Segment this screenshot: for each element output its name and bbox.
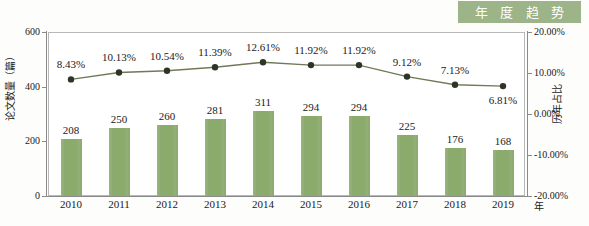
- y-axis-right-tick: [528, 32, 532, 33]
- bar: [301, 116, 322, 196]
- y-axis-left-tick: [42, 141, 46, 142]
- line-value-label: 7.13%: [425, 65, 485, 76]
- x-axis-label: 2010: [47, 199, 95, 210]
- bar-value-label: 294: [287, 102, 335, 113]
- bar-value-label: 225: [383, 121, 431, 132]
- x-axis-line: [46, 196, 528, 197]
- x-axis-label: 2017: [383, 199, 431, 210]
- x-axis-label: 2015: [287, 199, 335, 210]
- x-axis-label: 2016: [335, 199, 383, 210]
- bar: [205, 119, 226, 196]
- x-axis-label: 2019: [479, 199, 527, 210]
- y-axis-right-tick: [528, 155, 532, 156]
- y-axis-right-tick: [528, 114, 532, 115]
- y-axis-right-tick-label: 20.00%: [534, 27, 565, 37]
- x-axis-label: 2014: [239, 199, 287, 210]
- y-axis-left-tick-label: 0: [0, 191, 40, 201]
- bar-value-label: 260: [143, 111, 191, 122]
- chart-title-text: 年 度 趋 势: [471, 6, 567, 19]
- bar: [61, 139, 82, 196]
- y-axis-right-tick-label: -10.00%: [534, 150, 568, 160]
- y-axis-right-tick: [528, 196, 532, 197]
- x-axis-title: 年: [534, 198, 544, 213]
- bar: [109, 128, 130, 196]
- bar-value-label: 176: [431, 134, 479, 145]
- bar-value-label: 311: [239, 97, 287, 108]
- bar-value-label: 294: [335, 102, 383, 113]
- y-axis-right-tick: [528, 73, 532, 74]
- y-axis-left-line: [46, 31, 47, 197]
- line-value-label: 6.81%: [473, 95, 533, 106]
- bar-value-label: 168: [479, 136, 527, 147]
- y-axis-left-tick: [42, 196, 46, 197]
- x-axis-label: 2011: [95, 199, 143, 210]
- annual-trend-chart: 年 度 趋 势 0200400600 -20.00%-10.00%0.00%10…: [0, 0, 589, 226]
- bar: [157, 125, 178, 196]
- bar-value-label: 250: [95, 114, 143, 125]
- line-value-label: 11.92%: [329, 45, 389, 56]
- y-axis-left-tick: [42, 87, 46, 88]
- chart-title-badge: 年 度 趋 势: [458, 1, 581, 23]
- y-axis-left-tick-label: 200: [0, 136, 40, 146]
- x-axis-label: 2018: [431, 199, 479, 210]
- bar: [493, 150, 514, 196]
- bar-value-label: 281: [191, 105, 239, 116]
- y-axis-left-tick: [42, 32, 46, 33]
- bar: [349, 116, 370, 196]
- bar-value-label: 208: [47, 125, 95, 136]
- x-axis-label: 2012: [143, 199, 191, 210]
- x-axis-label: 2013: [191, 199, 239, 210]
- y-axis-right-title: 历年占比: [549, 69, 564, 139]
- bar: [397, 135, 418, 197]
- y-axis-left-title: 论文数量（篇）: [2, 36, 17, 136]
- bar: [445, 148, 466, 196]
- bar: [253, 111, 274, 196]
